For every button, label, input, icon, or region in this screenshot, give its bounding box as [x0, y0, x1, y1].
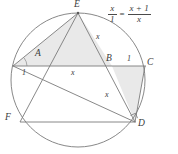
segment-label-lower-x: x [105, 91, 109, 99]
equation-left-fraction: x 1 [108, 4, 117, 25]
chord-EF [20, 13, 78, 122]
point-label-C: C [147, 58, 153, 68]
equation-operator: = [120, 9, 125, 19]
point-label-F: F [5, 113, 11, 123]
point-label-A: A [35, 49, 41, 59]
point-dot-E [77, 12, 79, 14]
equation-right-numerator: x + 1 [128, 4, 151, 14]
point-label-B: B [106, 54, 112, 64]
point-label-D: D [138, 119, 145, 129]
equation-right-denominator: x [135, 15, 143, 25]
geometry-figure: E A B C D F 1 x 1 x x x 1 = x + 1 x [0, 0, 178, 154]
segment-label-mid-x: x [71, 69, 75, 77]
equation-left-numerator: x [108, 4, 116, 14]
equation-right-fraction: x + 1 x [128, 4, 151, 25]
equation: x 1 = x + 1 x [108, 4, 151, 25]
geometry-canvas [0, 0, 178, 154]
segment-label-right-unit: 1 [127, 55, 131, 63]
segment-label-upper-x: x [96, 33, 100, 41]
equation-left-denominator: 1 [108, 15, 117, 25]
segment-label-left-unit: 1 [22, 69, 26, 77]
point-label-E: E [74, 0, 80, 10]
